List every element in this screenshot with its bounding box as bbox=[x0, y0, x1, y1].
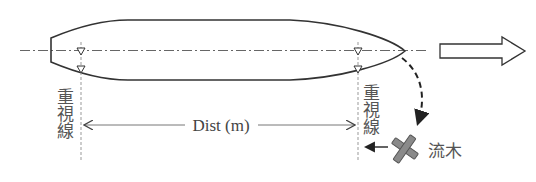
driftwood-path-arrow bbox=[402, 58, 422, 123]
marker-triangle-icon bbox=[77, 48, 85, 55]
distance-label: Dist (m) bbox=[192, 116, 249, 135]
focus-line-left-label-3: 線 bbox=[57, 121, 74, 141]
ship-diagram: 重 視 線 重 視 線 Dist (m) 流木 bbox=[0, 0, 536, 182]
direction-arrow-icon bbox=[440, 37, 525, 65]
marker-triangle-icon bbox=[354, 48, 362, 55]
focus-line-right-label-3: 線 bbox=[363, 117, 380, 137]
driftwood-cross-icon bbox=[392, 135, 419, 164]
driftwood-label: 流木 bbox=[428, 141, 462, 161]
